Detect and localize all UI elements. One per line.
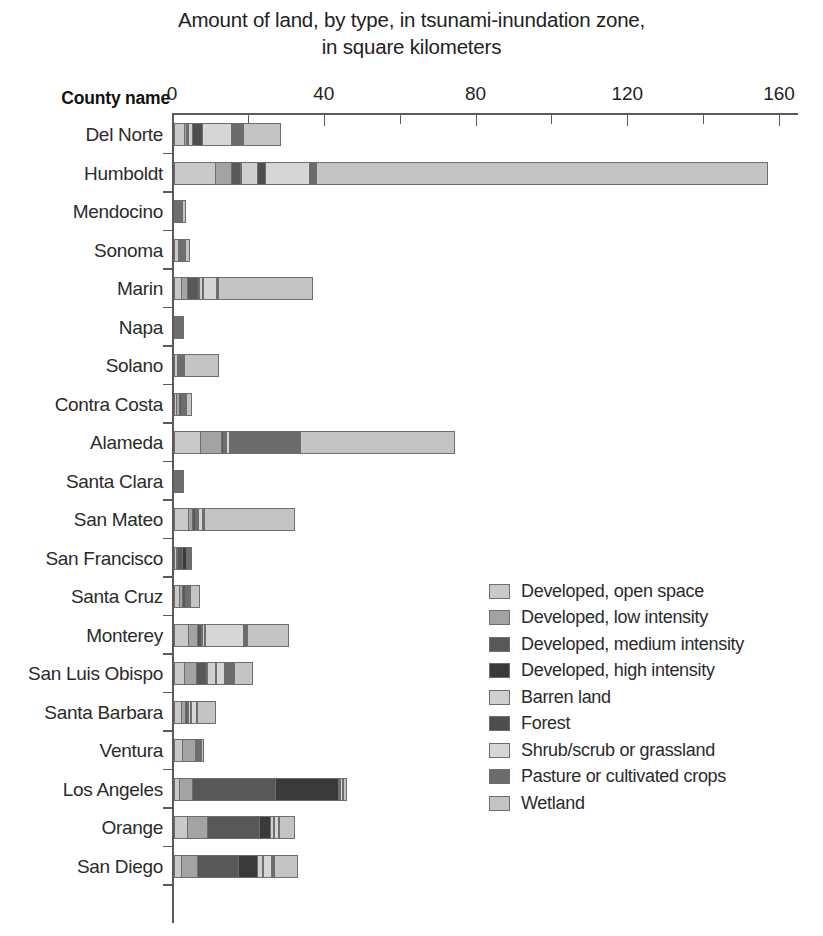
legend-swatch-icon [489, 796, 510, 811]
bar-row[interactable]: Napa [172, 309, 798, 348]
bar-segment [182, 316, 184, 339]
x-tick-label-160: 160 [763, 83, 795, 105]
y-tick [163, 692, 172, 694]
category-label-contra-costa: Contra Costa [55, 394, 163, 416]
bar-segment [243, 123, 281, 146]
bar-row[interactable]: San Diego [172, 848, 798, 887]
x-tick-label-80: 80 [465, 83, 486, 105]
y-tick [163, 191, 172, 193]
legend-item[interactable]: Wetland [489, 790, 789, 817]
bar-segment [174, 624, 189, 647]
legend-item[interactable]: Developed, open space [489, 578, 789, 605]
legend-item[interactable]: Developed, high intensity [489, 658, 789, 685]
y-tick [163, 422, 172, 424]
y-tick [163, 230, 172, 232]
stacked-bar[interactable] [174, 778, 354, 801]
bar-row[interactable]: Mendocino [172, 193, 798, 232]
legend-item[interactable]: Developed, medium intensity [489, 631, 789, 658]
chart-title-line-2: in square kilometers [0, 33, 823, 60]
stacked-bar[interactable] [174, 701, 223, 724]
legend-item[interactable]: Forest [489, 711, 789, 738]
bar-segment [265, 162, 311, 185]
chart-legend: Developed, open spaceDeveloped, low inte… [489, 578, 789, 817]
stacked-bar[interactable] [174, 123, 288, 146]
stacked-bar[interactable] [174, 508, 302, 531]
y-tick [163, 461, 172, 463]
bar-segment [190, 547, 192, 570]
bar-segment [184, 354, 219, 377]
bar-segment [279, 816, 294, 839]
bar-row[interactable]: San Mateo [172, 501, 798, 540]
y-tick [163, 807, 172, 809]
bar-row[interactable]: Santa Clara [172, 463, 798, 502]
bar-segment [174, 816, 188, 839]
bar-segment [300, 431, 456, 454]
page-title: Amount of land, by type, in tsunami-inun… [0, 6, 823, 60]
category-label-humboldt: Humboldt [84, 163, 163, 185]
y-tick [163, 345, 172, 347]
legend-swatch-icon [489, 663, 510, 678]
bar-segment [182, 739, 196, 762]
legend-label: Wetland [521, 793, 585, 814]
legend-label: Developed, open space [521, 581, 704, 602]
stacked-bar[interactable] [174, 816, 302, 839]
x-tick-label-0: 0 [167, 83, 178, 105]
stacked-bar[interactable] [174, 585, 204, 608]
bar-row[interactable]: Humboldt [172, 155, 798, 194]
stacked-bar[interactable] [174, 470, 183, 493]
stacked-bar[interactable] [174, 162, 775, 185]
stacked-bar[interactable] [174, 200, 189, 223]
bar-row[interactable]: Contra Costa [172, 386, 798, 425]
stacked-bar[interactable] [174, 393, 195, 416]
legend-swatch-icon [489, 769, 510, 784]
y-tick [163, 538, 172, 540]
stacked-bar[interactable] [174, 855, 306, 878]
legend-swatch-icon [489, 584, 510, 599]
y-tick [163, 153, 172, 155]
legend-label: Developed, high intensity [521, 660, 715, 681]
bar-segment [316, 162, 767, 185]
category-label-alameda: Alameda [90, 432, 163, 454]
bar-row[interactable]: Sonoma [172, 232, 798, 271]
bar-segment [182, 200, 186, 223]
bar-segment [174, 508, 189, 531]
bar-segment [241, 162, 258, 185]
bar-segment [174, 431, 201, 454]
stacked-bar[interactable] [174, 547, 195, 570]
legend-item[interactable]: Developed, low intensity [489, 605, 789, 632]
bar-row[interactable]: Solano [172, 347, 798, 386]
category-label-mendocino: Mendocino [73, 201, 163, 223]
bar-segment [200, 431, 223, 454]
legend-label: Pasture or cultivated crops [521, 766, 726, 787]
stacked-bar[interactable] [174, 624, 296, 647]
stacked-bar[interactable] [174, 277, 321, 300]
stacked-bar[interactable] [174, 662, 261, 685]
legend-item[interactable]: Pasture or cultivated crops [489, 764, 789, 791]
y-tick [163, 576, 172, 578]
category-label-santa-cruz: Santa Cruz [71, 586, 163, 608]
stacked-bar[interactable] [174, 316, 184, 339]
legend-item[interactable]: Shrub/scrub or grassland [489, 737, 789, 764]
category-label-san-diego: San Diego [77, 856, 163, 878]
stacked-bar[interactable] [174, 239, 193, 262]
bar-segment [247, 624, 289, 647]
bar-segment [218, 277, 313, 300]
category-label-san-francisco: San Francisco [45, 548, 163, 570]
bar-segment [185, 239, 190, 262]
stacked-bar[interactable] [174, 431, 462, 454]
legend-label: Developed, low intensity [521, 607, 708, 628]
bar-row[interactable]: San Francisco [172, 540, 798, 579]
bar-segment [182, 470, 184, 493]
legend-item[interactable]: Barren land [489, 684, 789, 711]
bar-segment [274, 855, 299, 878]
y-tick [163, 499, 172, 501]
bar-row[interactable]: Del Norte [172, 116, 798, 155]
y-tick [163, 268, 172, 270]
bar-row[interactable]: Alameda [172, 424, 798, 463]
stacked-bar[interactable] [174, 354, 219, 377]
legend-swatch-icon [489, 743, 510, 758]
y-tick [163, 846, 172, 848]
bar-segment [229, 431, 301, 454]
stacked-bar[interactable] [174, 739, 207, 762]
bar-row[interactable]: Marin [172, 270, 798, 309]
